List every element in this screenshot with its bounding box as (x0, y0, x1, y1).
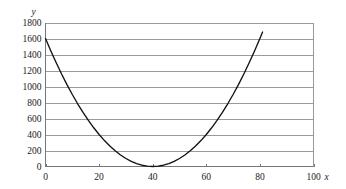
x-axis-label: x (324, 172, 330, 182)
y-tick-label: 400 (27, 130, 42, 140)
y-tick-label: 1800 (23, 18, 42, 28)
data-curve (46, 32, 263, 166)
parabola-chart: 020040060080010001200140016001800 020406… (0, 0, 346, 189)
y-tick-label: 1600 (23, 34, 42, 44)
x-tick-label: 20 (94, 172, 104, 182)
y-tick-label: 1000 (23, 82, 42, 92)
x-tick-label: 80 (255, 172, 265, 182)
x-tick-label: 60 (202, 172, 212, 182)
chart-container: 020040060080010001200140016001800 020406… (0, 0, 346, 189)
x-tick-label: 0 (43, 172, 48, 182)
y-axis-label: y (30, 7, 36, 17)
y-tick-label: 200 (27, 146, 42, 156)
y-tick-labels-group: 020040060080010001200140016001800 (23, 18, 42, 172)
x-tick-label: 100 (306, 172, 321, 182)
y-tick-label: 1400 (23, 50, 42, 60)
y-tick-label: 800 (27, 98, 42, 108)
y-tick-label: 1200 (23, 66, 42, 76)
y-tick-label: 0 (37, 162, 42, 172)
y-tick-label: 600 (27, 114, 42, 124)
x-tick-labels-group: 020406080100 (43, 172, 321, 182)
axes-group (46, 23, 314, 167)
gridlines-group (46, 24, 314, 152)
x-tick-label: 40 (148, 172, 158, 182)
